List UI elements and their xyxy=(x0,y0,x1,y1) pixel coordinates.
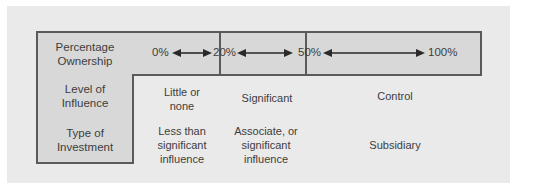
marker-100-percent: 100% xyxy=(428,46,457,58)
investment-subsidiary: Subsidiary xyxy=(340,138,450,152)
double-arrow-icon xyxy=(172,47,212,59)
cell-line: influence xyxy=(142,152,222,166)
cell-line: Control xyxy=(340,89,450,103)
influence-control: Control xyxy=(340,89,450,103)
cell-line: Significant xyxy=(222,91,312,105)
cell-line: Little or xyxy=(142,85,222,99)
marker-0-percent: 0% xyxy=(152,46,169,58)
double-arrow-icon xyxy=(237,47,293,59)
influence-little-or-none: Little or none xyxy=(142,85,222,113)
double-arrow-icon xyxy=(323,47,425,59)
label-line: Influence xyxy=(62,96,109,110)
investment-associate: Associate, or significant influence xyxy=(220,124,312,166)
row-label-percentage-ownership: Percentage Ownership xyxy=(36,31,134,76)
label-line: Percentage xyxy=(56,40,115,54)
cell-line: significant xyxy=(220,138,312,152)
label-line: Ownership xyxy=(56,54,115,68)
cell-line: Less than xyxy=(142,124,222,138)
ownership-scale-row: 0% 20% 50% 100% xyxy=(132,31,482,76)
row-label-level-of-influence: Level of Influence xyxy=(36,74,134,120)
label-line: Type of xyxy=(57,126,113,140)
row-label-type-of-investment: Type of Investment xyxy=(36,118,134,164)
investment-less-than-significant: Less than significant influence xyxy=(142,124,222,166)
cell-line: Associate, or xyxy=(220,124,312,138)
marker-50-percent: 50% xyxy=(298,46,321,58)
marker-20-percent: 20% xyxy=(213,46,236,58)
influence-significant: Significant xyxy=(222,91,312,105)
cell-line: influence xyxy=(220,152,312,166)
cell-line: significant xyxy=(142,138,222,152)
label-line: Investment xyxy=(57,140,113,154)
cell-line: none xyxy=(142,99,222,113)
label-line: Level of xyxy=(62,82,109,96)
cell-line: Subsidiary xyxy=(340,138,450,152)
